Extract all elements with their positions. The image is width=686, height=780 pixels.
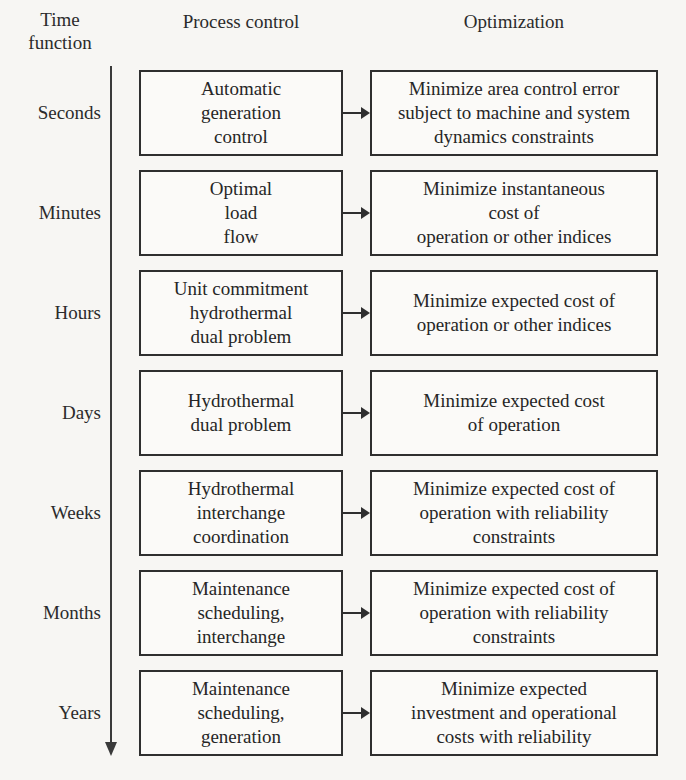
optimization-box-minutes: Minimize instantaneous cost of operation…: [370, 170, 658, 256]
time-label-months: Months: [0, 602, 101, 624]
time-label-seconds: Seconds: [0, 102, 101, 124]
time-label-weeks: Weeks: [0, 502, 101, 524]
connector-arrowhead-icon-minutes: [361, 207, 370, 219]
process-control-box-minutes: Optimal load flow: [139, 170, 343, 256]
connector-arrow-minutes: [343, 212, 363, 214]
time-label-days: Days: [0, 402, 101, 424]
time-axis-line: [110, 66, 112, 750]
column-header-optimization: Optimization: [370, 10, 658, 33]
time-label-minutes: Minutes: [0, 202, 101, 224]
connector-arrow-years: [343, 712, 363, 714]
connector-arrowhead-icon-hours: [361, 307, 370, 319]
process-control-box-days: Hydrothermal dual problem: [139, 370, 343, 456]
connector-arrowhead-icon-days: [361, 407, 370, 419]
process-control-box-months: Maintenance scheduling, interchange: [139, 570, 343, 656]
time-label-years: Years: [0, 702, 101, 724]
process-control-box-years: Maintenance scheduling, generation: [139, 670, 343, 756]
optimization-box-weeks: Minimize expected cost of operation with…: [370, 470, 658, 556]
time-label-hours: Hours: [0, 302, 101, 324]
connector-arrow-hours: [343, 312, 363, 314]
connector-arrowhead-icon-years: [361, 707, 370, 719]
optimization-box-years: Minimize expected investment and operati…: [370, 670, 658, 756]
connector-arrowhead-icon-seconds: [361, 107, 370, 119]
optimization-box-hours: Minimize expected cost of operation or o…: [370, 270, 658, 356]
process-control-box-hours: Unit commitment hydrothermal dual proble…: [139, 270, 343, 356]
connector-arrow-months: [343, 612, 363, 614]
time-axis-arrow-icon: [105, 742, 117, 756]
process-control-box-seconds: Automatic generation control: [139, 70, 343, 156]
optimization-box-months: Minimize expected cost of operation with…: [370, 570, 658, 656]
process-control-box-weeks: Hydrothermal interchange coordination: [139, 470, 343, 556]
connector-arrow-weeks: [343, 512, 363, 514]
connector-arrowhead-icon-weeks: [361, 507, 370, 519]
optimization-box-seconds: Minimize area control error subject to m…: [370, 70, 658, 156]
connector-arrow-seconds: [343, 112, 363, 114]
diagram-canvas: Time function Process control Optimizati…: [0, 0, 686, 780]
optimization-box-days: Minimize expected cost of operation: [370, 370, 658, 456]
column-header-time-function: Time function: [14, 8, 106, 54]
connector-arrowhead-icon-months: [361, 607, 370, 619]
column-header-process-control: Process control: [139, 10, 343, 33]
connector-arrow-days: [343, 412, 363, 414]
